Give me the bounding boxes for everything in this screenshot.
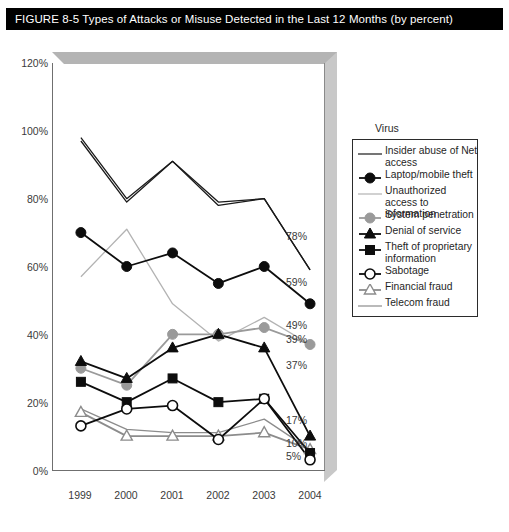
y-tick-label: 60% — [27, 261, 48, 273]
legend-marker-none-icon — [357, 298, 383, 310]
data-point-filled-circle — [76, 228, 86, 238]
legend-item-label: Laptop/mobile theft — [383, 169, 473, 181]
y-tick-label: 40% — [27, 329, 48, 341]
data-point-open-triangle — [364, 284, 375, 294]
series-line — [81, 233, 310, 304]
legend-item-label: System penetration — [383, 209, 474, 221]
data-point-filled-square — [76, 377, 85, 386]
series-line — [81, 334, 310, 436]
series-end-label: 17% — [286, 414, 307, 426]
data-point-open-triangle — [167, 430, 178, 440]
data-point-filled-circle — [259, 262, 269, 272]
data-point-filled-triangle — [75, 355, 86, 365]
legend-item-label: Sabotage — [383, 265, 429, 277]
series-line — [81, 378, 310, 453]
data-point-filled-square — [366, 246, 375, 255]
series-line — [81, 138, 310, 270]
legend-item-label: Financial fraud — [383, 281, 453, 293]
x-tick-label: 2003 — [252, 489, 275, 501]
data-point-filled-circle — [213, 278, 223, 288]
data-point-open-circle — [76, 421, 86, 431]
series-end-label: 49% — [286, 319, 307, 331]
data-point-filled-circle — [168, 329, 178, 339]
x-tick-label: 2000 — [114, 489, 137, 501]
legend-heading: Virus — [375, 122, 399, 134]
data-point-filled-circle — [168, 248, 178, 258]
data-point-filled-triangle — [364, 228, 375, 238]
legend-marker-filled-circle-icon — [357, 210, 383, 222]
legend-item[interactable]: Theft of proprietary information — [357, 241, 479, 264]
chart-legend: Insider abuse of Net accessLaptop/mobile… — [352, 139, 478, 317]
series-end-label: 59% — [286, 276, 307, 288]
x-tick-label: 2001 — [160, 489, 183, 501]
legend-marker-filled-circle-icon — [357, 170, 383, 182]
series-line — [81, 412, 310, 449]
series-line — [81, 328, 310, 386]
chart-series-svg — [53, 63, 325, 470]
series-end-value-labels: 78%59%49%39%37%17%10%5% — [286, 0, 336, 532]
plot-area — [52, 63, 325, 471]
legend-item-label: Denial of service — [383, 225, 461, 237]
data-point-open-triangle — [121, 430, 132, 440]
data-point-filled-circle — [365, 173, 375, 183]
y-tick-label: 0% — [33, 465, 48, 477]
legend-marker-none-icon — [357, 186, 383, 198]
data-point-open-circle — [122, 404, 132, 414]
data-point-open-triangle — [259, 427, 270, 437]
data-point-filled-circle — [259, 323, 269, 333]
data-point-open-circle — [213, 434, 223, 444]
legend-item-label: Insider abuse of Net access — [383, 145, 479, 168]
x-tick-label: 2002 — [206, 489, 229, 501]
page-title: FIGURE 8-5 Types of Attacks or Misuse De… — [6, 13, 453, 25]
legend-item[interactable]: Financial fraud — [357, 281, 479, 294]
data-point-filled-circle — [365, 213, 375, 223]
series-end-label: 78% — [286, 230, 307, 242]
data-point-filled-square — [214, 398, 223, 407]
data-point-open-circle — [259, 394, 269, 404]
data-point-filled-square — [168, 374, 177, 383]
series-end-label: 37% — [286, 359, 307, 371]
series-line — [81, 141, 310, 270]
legend-item[interactable]: Denial of service — [357, 225, 479, 238]
y-tick-label: 80% — [27, 193, 48, 205]
legend-item-label: Telecom fraud — [383, 297, 450, 309]
legend-item[interactable]: System penetration — [357, 209, 479, 222]
data-point-open-circle — [168, 401, 178, 411]
series-end-label: 5% — [286, 450, 301, 462]
legend-marker-open-circle-icon — [357, 266, 383, 278]
legend-item-label: Theft of proprietary information — [383, 241, 479, 264]
legend-item[interactable]: Insider abuse of Net access — [357, 145, 479, 168]
legend-marker-filled-square-icon — [357, 242, 383, 254]
series-line — [81, 229, 310, 344]
figure-title-bar: FIGURE 8-5 Types of Attacks or Misuse De… — [6, 8, 503, 30]
legend-marker-none-icon — [357, 146, 383, 158]
y-axis-labels: 0%20%40%60%80%100%120% — [8, 52, 48, 482]
series-end-label: 39% — [286, 333, 307, 345]
y-tick-label: 100% — [21, 125, 48, 137]
y-tick-label: 120% — [21, 57, 48, 69]
data-point-filled-circle — [122, 262, 132, 272]
legend-marker-filled-triangle-icon — [357, 226, 383, 238]
legend-item[interactable]: Telecom fraud — [357, 297, 479, 310]
figure-page: FIGURE 8-5 Types of Attacks or Misuse De… — [0, 0, 509, 532]
y-tick-label: 20% — [27, 397, 48, 409]
x-tick-label: 1999 — [68, 489, 91, 501]
legend-item[interactable]: Sabotage — [357, 265, 479, 278]
legend-marker-open-triangle-icon — [357, 282, 383, 294]
series-end-label: 10% — [286, 437, 307, 449]
data-point-open-circle — [365, 269, 375, 279]
legend-item[interactable]: Laptop/mobile theft — [357, 169, 479, 182]
legend-item-list: Insider abuse of Net accessLaptop/mobile… — [353, 140, 479, 318]
